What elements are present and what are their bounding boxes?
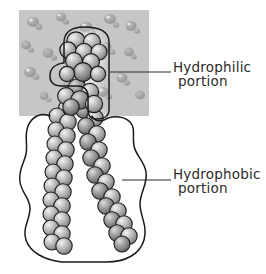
label-hydrophobic: Hydrophobic portion (173, 167, 261, 195)
label-hydrophobic-line1: Hydrophobic (173, 167, 261, 181)
phospholipid-diagram (0, 0, 266, 274)
label-hydrophilic: Hydrophilic portion (173, 60, 251, 88)
label-hydrophilic-line1: Hydrophilic (173, 60, 251, 74)
hydrophilic-head-group (59, 32, 107, 82)
label-hydrophobic-line2: portion (173, 181, 261, 195)
figure-canvas: Hydrophilic portion Hydrophobic portion (0, 0, 266, 274)
label-hydrophilic-line2: portion (173, 74, 251, 88)
